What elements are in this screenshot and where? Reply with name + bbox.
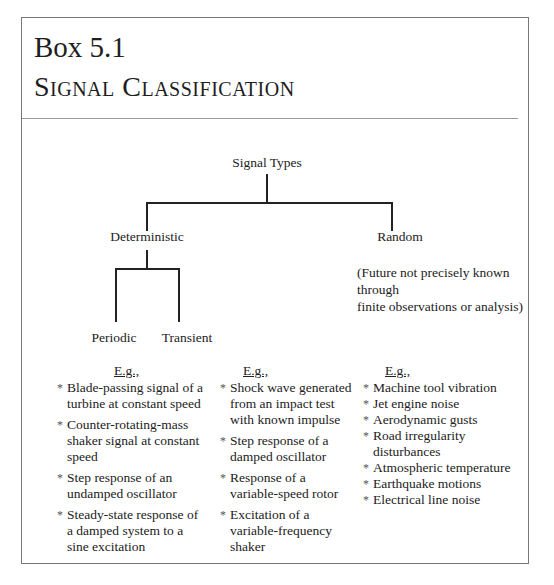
box-number: Box 5.1 bbox=[34, 30, 126, 64]
random-note-line-2: finite observations or analysis) bbox=[357, 298, 554, 315]
list-item: Aerodynamic gusts bbox=[363, 412, 533, 428]
list-item: Shock wave generated from an impact test… bbox=[220, 380, 352, 428]
eg-label-random: E.g., bbox=[363, 363, 533, 379]
list-item: Machine tool vibration bbox=[363, 380, 533, 396]
list-item: Step response of a damped oscillator bbox=[220, 433, 352, 465]
connector-deterministic-down bbox=[146, 250, 148, 269]
random-note-line-1: (Future not precisely known through bbox=[357, 264, 554, 298]
list-item: Excitation of a variable-frequency shake… bbox=[220, 507, 352, 555]
eg-label-transient: E.g., bbox=[220, 363, 352, 379]
node-transient: Transient bbox=[162, 330, 213, 346]
random-examples: E.g., Machine tool vibration Jet engine … bbox=[363, 363, 533, 508]
list-item: Step response of an undamped oscillator bbox=[57, 470, 207, 502]
node-periodic: Periodic bbox=[92, 330, 137, 346]
connector-level2 bbox=[115, 268, 179, 270]
node-random: Random bbox=[377, 229, 423, 245]
eg-label-periodic: E.g., bbox=[57, 363, 207, 379]
node-signal-types: Signal Types bbox=[232, 155, 302, 171]
connector-transient bbox=[178, 268, 180, 322]
connector-periodic bbox=[115, 268, 117, 322]
connector-deterministic bbox=[146, 202, 148, 231]
list-item: Steady-state response of a damped system… bbox=[57, 507, 207, 555]
box-title: Signal Classification bbox=[34, 70, 295, 104]
connector-random bbox=[391, 202, 393, 231]
periodic-examples: E.g., Blade-passing signal of a turbine … bbox=[57, 363, 207, 560]
list-item: Response of a variable-speed rotor bbox=[220, 470, 352, 502]
connector-level1 bbox=[146, 202, 393, 204]
list-item: Electrical line noise bbox=[363, 492, 533, 508]
list-item: Earthquake motions bbox=[363, 476, 533, 492]
list-item: Blade-passing signal of a turbine at con… bbox=[57, 380, 207, 412]
list-item: Atmospheric temperature bbox=[363, 460, 533, 476]
random-note: (Future not precisely known through fini… bbox=[357, 264, 554, 315]
node-deterministic: Deterministic bbox=[110, 229, 183, 245]
list-item: Road irregularity disturbances bbox=[363, 428, 533, 460]
transient-examples: E.g., Shock wave generated from an impac… bbox=[220, 363, 352, 560]
list-item: Jet engine noise bbox=[363, 396, 533, 412]
connector-root bbox=[266, 174, 268, 203]
list-item: Counter-rotating-mass shaker signal at c… bbox=[57, 417, 207, 465]
title-divider bbox=[22, 118, 518, 119]
